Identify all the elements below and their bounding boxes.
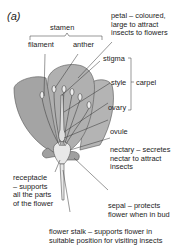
label-ovule: ovule (110, 128, 128, 137)
label-receptacle: receptacle – supports all the parts of t… (13, 174, 53, 208)
label-nectary: nectary – secretes nectar to attract ins… (110, 146, 170, 172)
label-carpel: carpel (136, 79, 156, 88)
label-stamen: stamen (50, 24, 74, 33)
label-stigma: stigma (103, 55, 125, 64)
flower-stalk (60, 164, 64, 200)
label-ovary: ovary (108, 104, 126, 113)
label-sepal: sepal – protects flower when in bud (108, 202, 170, 219)
label-flower-stalk: flower stalk – supports flower in suitab… (49, 228, 162, 245)
label-petal: petal – coloured, large to attract insec… (111, 12, 168, 38)
label-filament: filament (28, 41, 54, 50)
label-anther: anther (73, 41, 94, 50)
label-style: style (111, 79, 126, 88)
